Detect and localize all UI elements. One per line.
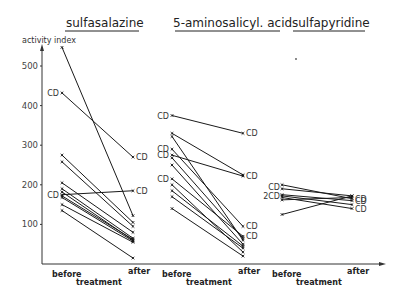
data-point-marker [171, 135, 174, 138]
data-point-marker [171, 164, 174, 167]
data-point-marker [171, 207, 174, 210]
panel-titles: sulfasalazine 5-aminosalicyl. acid sulfa… [65, 16, 370, 31]
data-point-marker [242, 255, 245, 258]
data-point-marker [61, 191, 64, 194]
data-point-marker [61, 209, 64, 212]
data-point-marker [171, 178, 174, 181]
panel-title-sulfapyridine: sulfapyridine [292, 16, 370, 30]
y-tick-label: 300 [22, 140, 38, 150]
cd-annotation: 2CD [263, 192, 280, 201]
y-tick-label: 400 [22, 101, 38, 111]
panel-title-5asa: 5-aminosalicyl. acid [173, 16, 292, 30]
data-point-marker [132, 221, 135, 224]
y-axis-label: activity index [22, 36, 76, 45]
chart-canvas: sulfasalazine 5-aminosalicyl. acid sulfa… [0, 0, 395, 300]
data-point-marker [61, 161, 64, 164]
panel-0: CDCDCDCD [47, 46, 148, 259]
panel-2: CDCDCDCD2CD [263, 183, 367, 216]
data-point-marker [61, 92, 64, 95]
data-point-marker [132, 231, 135, 234]
cd-annotation: CD [246, 222, 258, 231]
cd-annotation: CD [47, 191, 59, 200]
patient-line [172, 158, 243, 238]
data-point-marker [132, 156, 135, 159]
patient-line [172, 155, 243, 176]
panel-title-sulfasalazine: sulfasalazine [66, 16, 144, 30]
x-tick-after: after [347, 267, 369, 276]
patient-line [172, 191, 243, 246]
cd-annotation: CD [355, 205, 367, 214]
stray-mark [295, 58, 297, 60]
data-point-marker [242, 251, 245, 254]
cd-annotation: CD [268, 183, 280, 192]
data-point-marker [171, 195, 174, 198]
cd-annotation: CD [157, 112, 169, 121]
data-point-marker [171, 148, 174, 151]
x-tick-after: after [128, 267, 150, 276]
y-tick-label: 500 [22, 61, 38, 71]
patient-line [62, 155, 133, 222]
data-point-marker [242, 235, 245, 238]
data-panels: CDCDCDCDCDCDCDCDCDCDCDCDCDCDCDCD2CD [47, 46, 367, 259]
cd-annotation: CD [246, 232, 258, 241]
data-point-marker [171, 184, 174, 187]
x-axis: beforetreatmentafterbeforetreatmentafter… [42, 262, 386, 287]
patient-line [282, 185, 352, 199]
data-point-marker [61, 154, 64, 157]
panel-1: CDCDCDCDCDCDCDCD [157, 112, 258, 258]
data-point-marker [61, 182, 64, 185]
data-point-marker [171, 189, 174, 192]
data-point-marker [242, 247, 245, 250]
patient-line [172, 133, 243, 175]
patient-line [282, 189, 352, 196]
cd-annotation: CD [246, 129, 258, 138]
y-tick-label: 200 [22, 180, 38, 190]
data-point-marker [132, 225, 135, 228]
cd-annotation: CD [136, 153, 148, 162]
cd-annotation: CD [157, 175, 169, 184]
cd-annotation: CD [246, 172, 258, 181]
y-axis: activity index 100200300400500 [22, 36, 76, 264]
cd-annotation: CD [47, 89, 59, 98]
data-point-marker [242, 225, 245, 228]
cd-annotation: CD [157, 151, 169, 160]
patient-line [62, 205, 133, 243]
data-point-marker [61, 187, 64, 190]
patient-line [172, 116, 243, 134]
x-tick-after: after [238, 267, 260, 276]
x-axis-label-treatment: treatment [76, 278, 122, 287]
y-tick-label: 100 [22, 219, 38, 229]
data-point-marker [171, 157, 174, 160]
x-axis-label-treatment: treatment [296, 278, 342, 287]
cd-annotation: CD [136, 187, 148, 196]
data-point-marker [132, 257, 135, 260]
patient-line [62, 189, 133, 239]
x-axis-label-treatment: treatment [186, 278, 232, 287]
patient-line [62, 93, 133, 157]
